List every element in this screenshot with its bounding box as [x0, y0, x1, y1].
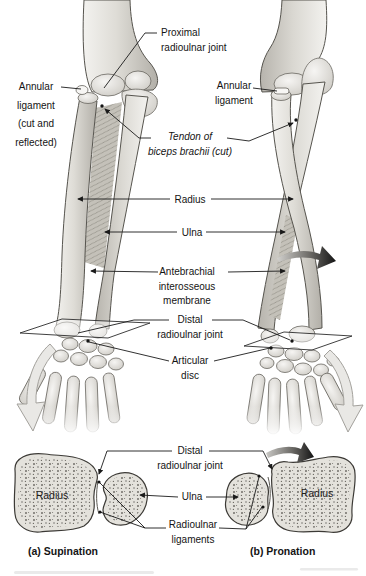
label-cs-radioulnar-ligaments: Radioulnar ligaments: [169, 518, 217, 547]
leader-membrane-left: [91, 271, 158, 272]
label-cs-radius-left: Radius: [36, 488, 69, 503]
hand-fade-right: [242, 406, 348, 436]
section-plane-left: [20, 319, 150, 338]
label-cs-radius-right: Radius: [301, 486, 334, 501]
label-proximal-radioulnar-joint: Proximal radioulnar joint: [161, 26, 227, 55]
cross-section-pronation: [225, 457, 355, 533]
pronation-arrow-small: [266, 442, 314, 463]
label-radius: Radius: [174, 193, 205, 208]
label-ulna: Ulna: [182, 226, 203, 241]
capitulum-left: [125, 71, 151, 91]
caption-pronation: (b) Pronation: [250, 544, 315, 559]
annular-ligament-flap: [76, 86, 88, 95]
label-annular-ligament-cut: Annular ligament (cut and reflected): [15, 78, 57, 152]
label-distal-radioulnar-joint: Distal radioulnar joint: [157, 313, 223, 342]
cross-section-supination: [14, 454, 147, 532]
label-articular-disc: Articular disc: [172, 354, 209, 383]
section-plane-right: [244, 332, 352, 350]
articular-disc-left: [97, 481, 99, 514]
label-cs-ulna: Ulna: [182, 490, 203, 505]
label-antebrachial-membrane: Antebrachial interosseous membrane: [159, 265, 216, 309]
radioulnar-joints-figure: Proximal radioulnar joint Annular ligame…: [0, 0, 366, 576]
trochlea-left: [91, 74, 125, 96]
caption-supination: (a) Supination: [28, 544, 98, 559]
label-annular-ligament: Annular ligament: [215, 79, 253, 108]
ulna-section-right-stipple: [229, 477, 266, 521]
forearm-pronation: [246, 0, 348, 434]
label-tendon-of-biceps: Tendon of biceps brachii (cut): [148, 130, 232, 159]
cropped-text-remnant: [14, 568, 358, 574]
label-cs-distal-radioulnar-joint: Distal radioulnar joint: [157, 444, 223, 473]
